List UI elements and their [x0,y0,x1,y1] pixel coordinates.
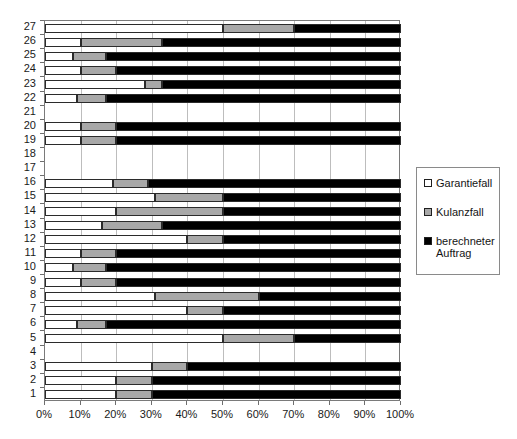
bar-row [45,207,399,216]
bar-segment [45,80,145,89]
y-tick-label: 18 [24,148,36,159]
y-tick-label: 14 [24,205,36,216]
y-tick-label: 16 [24,176,36,187]
x-tick-label: 60% [247,408,269,420]
bar-segment [116,278,401,287]
x-tick-mark [80,401,81,405]
y-tick-label: 27 [24,21,36,32]
bar-segment [116,249,401,258]
y-tick-label: 21 [24,106,36,117]
chart-legend: GarantiefallKulanzfallberechneter Auftra… [416,167,500,275]
bar-segment [102,221,163,230]
legend-item: Kulanzfall [424,206,499,218]
bar-segment [45,376,116,385]
bar-segment [45,249,81,258]
y-tick-label: 2 [30,374,36,385]
bar-segment [45,390,116,399]
x-tick-label: 80% [318,408,340,420]
x-tick-mark [222,401,223,405]
bar-segment [45,362,152,371]
bar-row [45,362,399,371]
bar-segment [45,24,223,33]
y-tick-label: 4 [30,346,36,357]
bar-row [45,292,399,301]
bar-segment [152,390,401,399]
x-tick-label: 0% [36,408,52,420]
y-tick-label: 12 [24,233,36,244]
y-tick-label: 25 [24,49,36,60]
x-tick-label: 70% [282,408,304,420]
bar-segment [223,334,294,343]
y-tick-label: 17 [24,162,36,173]
bar-segment [162,221,401,230]
bar-segment [152,376,401,385]
bar-segment [81,136,117,145]
y-tick-label: 8 [30,289,36,300]
x-tick-label: 30% [140,408,162,420]
bar-segment [45,136,81,145]
bar-segment [223,207,401,216]
y-tick-label: 15 [24,190,36,201]
y-axis: 1234567891011121314151617181920212223242… [0,20,44,401]
y-tick-label: 10 [24,261,36,272]
y-tick-label: 3 [30,360,36,371]
y-tick-label: 19 [24,134,36,145]
bar-segment [45,52,73,61]
bar-segment [116,376,152,385]
x-tick-mark [400,401,401,405]
x-tick-label: 50% [211,408,233,420]
x-tick-mark [44,401,45,405]
bar-row [45,94,399,103]
y-tick-label: 26 [24,35,36,46]
bar-row [45,390,399,399]
bar-segment [106,52,401,61]
y-tick-label: 7 [30,303,36,314]
bar-row [45,122,399,131]
bar-segment [45,207,116,216]
y-tick-label: 22 [24,92,36,103]
x-tick-mark [258,401,259,405]
bar-row [45,66,399,75]
bar-segment [106,94,401,103]
y-tick-label: 24 [24,63,36,74]
bar-segment [106,263,401,272]
bar-segment [73,263,105,272]
bar-row [45,24,399,33]
bar-segment [116,66,401,75]
bar-row [45,52,399,61]
bar-segment [223,306,401,315]
x-tick-mark [151,401,152,405]
bar-segment [45,179,113,188]
bar-segment [45,122,81,131]
bar-segment [116,136,401,145]
y-tick-label: 5 [30,332,36,343]
bar-segment [152,362,188,371]
bar-segment [155,292,258,301]
x-tick-label: 20% [104,408,126,420]
legend-swatch-berechnet [424,237,432,245]
legend-label: berechneter Auftrag [436,235,495,259]
x-tick-mark [364,401,365,405]
bar-segment [294,334,401,343]
bars-layer [45,21,399,400]
bar-row [45,80,399,89]
bar-segment [259,292,401,301]
x-tick-label: 10% [69,408,91,420]
bar-segment [45,320,77,329]
bar-segment [45,66,81,75]
y-tick-label: 20 [24,120,36,131]
bar-segment [162,38,401,47]
x-tick-label: 100% [386,408,414,420]
bar-row [45,38,399,47]
bar-segment [81,38,163,47]
bar-segment [45,278,81,287]
bar-segment [223,24,294,33]
bar-segment [77,94,105,103]
legend-item: Garantiefall [424,177,499,189]
bar-row [45,193,399,202]
y-tick-label: 11 [25,247,36,258]
legend-label: Kulanzfall [436,206,484,218]
bar-row [45,320,399,329]
bar-row [45,334,399,343]
x-tick-mark [115,401,116,405]
